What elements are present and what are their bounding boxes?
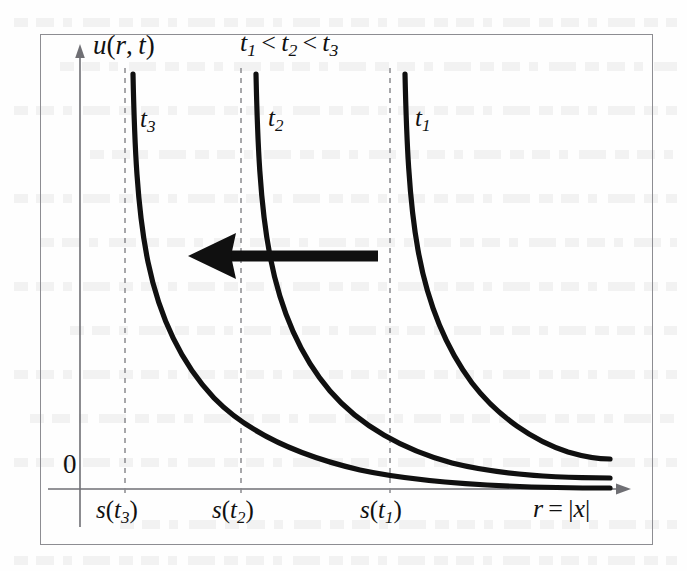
x-axis-label: r = |x|: [533, 496, 590, 522]
motion-arrow-left: [188, 233, 378, 279]
x-tick-label-s-t3: s(t3): [96, 497, 138, 522]
y-axis-label: u(r, t): [93, 32, 155, 59]
curve-label-t1: t1: [415, 105, 430, 130]
plot-title: t1 < t2 < t3: [240, 30, 338, 56]
solution-curves: [133, 74, 610, 488]
x-tick-label-s-t2: s(t2): [212, 497, 254, 522]
curve-t2: [256, 74, 610, 478]
plot-canvas: [0, 0, 687, 571]
curve-label-t3: t3: [140, 106, 155, 131]
y-axis: [75, 44, 85, 527]
curve-t1: [405, 74, 610, 459]
figure-page: u(r, t) t1 < t2 < t3 t3 t2 t1 0 s(t3) s(…: [0, 0, 687, 571]
x-tick-label-s-t1: s(t1): [360, 497, 402, 522]
curve-label-t2: t2: [268, 105, 283, 130]
origin-label: 0: [63, 451, 77, 478]
